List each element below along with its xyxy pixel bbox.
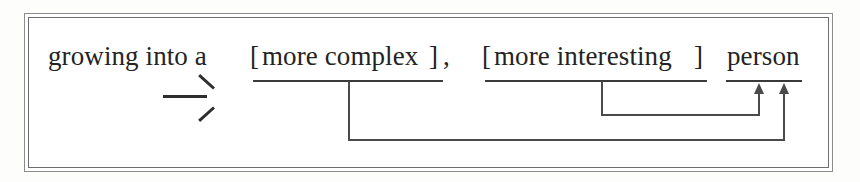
scanned-figure-surface: growing into a [ more complex ] , [ more… bbox=[0, 0, 860, 182]
movement-line-constituent-2-run bbox=[601, 114, 760, 116]
movement-line-constituent-1-run bbox=[348, 139, 785, 141]
underline-head-noun bbox=[726, 80, 802, 82]
constituent-2-text: more interesting bbox=[494, 36, 672, 76]
movement-arrowhead-inner-icon bbox=[754, 83, 764, 94]
movement-line-constituent-1-rise bbox=[783, 92, 785, 141]
head-noun-text: person bbox=[727, 36, 800, 76]
bracket-close-constituent-1: ] bbox=[429, 36, 438, 76]
rightwards-arrow-icon bbox=[160, 84, 222, 112]
constituent-1-text: more complex bbox=[262, 36, 418, 76]
underline-constituent-2 bbox=[485, 80, 707, 82]
sentence-lead-in-text: growing into a bbox=[48, 36, 207, 76]
bracket-close-constituent-2: ] bbox=[694, 36, 703, 76]
movement-arrowhead-outer-icon bbox=[779, 83, 789, 94]
bracket-open-constituent-2: [ bbox=[482, 36, 491, 76]
sentence-line: growing into a [ more complex ] , [ more… bbox=[0, 36, 860, 82]
bracket-open-constituent-1: [ bbox=[250, 36, 259, 76]
movement-line-constituent-2-rise bbox=[758, 92, 760, 116]
comma-separator: , bbox=[443, 36, 450, 76]
movement-line-constituent-2-drop bbox=[601, 81, 603, 116]
rightwards-arrow-shaft bbox=[163, 95, 207, 98]
movement-line-constituent-1-drop bbox=[348, 81, 350, 140]
